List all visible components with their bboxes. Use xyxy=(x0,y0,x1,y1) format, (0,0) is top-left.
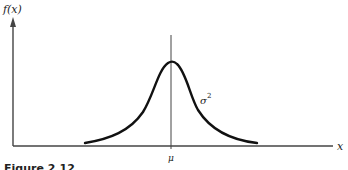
figure-caption: Figure 2.12 xyxy=(4,162,75,170)
y-axis-label: f(x) xyxy=(2,3,22,16)
y-axis-arrow-icon xyxy=(10,17,16,27)
density-diagram: f(x) x μ σ 2 Figure 2.12 xyxy=(0,0,348,170)
mean-label: μ xyxy=(168,153,174,163)
x-axis-label: x xyxy=(337,140,344,153)
variance-exponent: 2 xyxy=(207,92,211,100)
